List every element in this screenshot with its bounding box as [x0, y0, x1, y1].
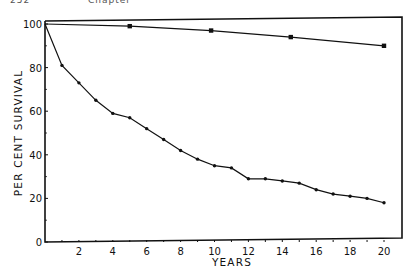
- x-tick-label: 6: [144, 246, 150, 257]
- dot-marker: [382, 201, 385, 204]
- dot-marker: [365, 197, 368, 200]
- y-axis-title: PER CENT SURVIVAL: [12, 70, 24, 196]
- cross-marker: [382, 44, 386, 48]
- x-tick-label: 8: [177, 246, 183, 257]
- x-tick-label: 4: [110, 246, 116, 257]
- data-series: [45, 24, 386, 204]
- x-tick-label: 18: [344, 246, 357, 257]
- y-tick-label: 0: [36, 237, 42, 248]
- dot-marker: [281, 179, 284, 182]
- dot-marker: [298, 181, 301, 184]
- y-tick-label: 60: [29, 106, 42, 117]
- dot-marker: [264, 177, 267, 180]
- lower-survival-line: [45, 24, 384, 203]
- cross-marker: [289, 35, 293, 39]
- dot-marker: [179, 149, 182, 152]
- dot-marker: [162, 138, 165, 141]
- y-tick-label: 80: [29, 63, 42, 74]
- dot-marker: [230, 166, 233, 169]
- survival-chart: 0204060801002468101214161820 YEARS PER C…: [0, 0, 416, 279]
- dot-marker: [315, 188, 318, 191]
- x-tick-label: 20: [378, 246, 391, 257]
- cross-marker: [128, 24, 132, 28]
- upper-survival-line: [45, 24, 384, 46]
- x-tick-label: 14: [276, 246, 289, 257]
- x-tick-label: 2: [76, 246, 82, 257]
- x-tick-label: 16: [310, 246, 323, 257]
- dot-marker: [247, 177, 250, 180]
- dot-marker: [60, 64, 63, 67]
- dot-marker: [77, 81, 80, 84]
- dot-marker: [94, 99, 97, 102]
- dot-marker: [128, 116, 131, 119]
- y-tick-label: 20: [29, 193, 42, 204]
- dot-marker: [196, 157, 199, 160]
- y-tick-label: 40: [29, 150, 42, 161]
- axis-ticks: 0204060801002468101214161820: [23, 19, 390, 257]
- y-tick-label: 100: [23, 19, 42, 30]
- x-axis-title: YEARS: [211, 256, 252, 268]
- dot-marker: [331, 192, 334, 195]
- cross-marker: [209, 28, 213, 32]
- dot-marker: [111, 112, 114, 115]
- plot-frame: [45, 17, 402, 242]
- axes-frame: [45, 17, 402, 242]
- dot-marker: [213, 164, 216, 167]
- dot-marker: [145, 127, 148, 130]
- dot-marker: [348, 195, 351, 198]
